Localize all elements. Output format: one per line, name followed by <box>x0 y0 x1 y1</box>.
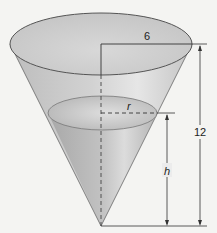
h-arrow-up-icon <box>165 114 169 120</box>
top-radius-label: 6 <box>144 30 150 42</box>
cone-diagram: 6 r h 12 <box>0 0 217 233</box>
h-arrow-down-icon <box>165 220 169 226</box>
total-arrow-down-icon <box>198 220 202 226</box>
water-height-label: h <box>164 165 170 177</box>
total-arrow-up-icon <box>198 45 202 51</box>
total-height-label: 12 <box>194 126 206 138</box>
